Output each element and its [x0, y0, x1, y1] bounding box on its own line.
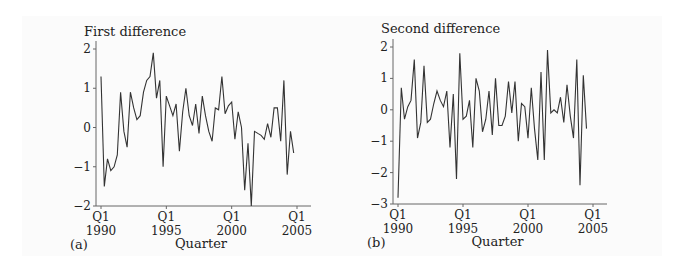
x-axis-label: Quarter: [471, 234, 524, 249]
y-tick-label: −3: [370, 197, 388, 211]
data-line: [101, 53, 294, 206]
y-tick-label: 0: [380, 103, 388, 117]
panel-label: (b): [367, 235, 385, 250]
y-tick-label: −2: [73, 199, 91, 213]
x-axis-label: Quarter: [175, 236, 228, 251]
x-tick-label-quarter: Q1: [92, 210, 109, 224]
chart-first-difference: First difference210−1−2Q11990Q11995Q1200…: [0, 0, 340, 270]
x-tick-label-quarter: Q1: [288, 210, 305, 224]
x-tick-label-year: 2005: [578, 222, 609, 236]
y-tick-label: 1: [83, 81, 91, 95]
data-line: [398, 50, 587, 198]
x-tick-label-quarter: Q1: [454, 208, 471, 222]
x-tick-label-quarter: Q1: [158, 210, 175, 224]
y-tick-label: 1: [380, 71, 388, 85]
chart-title: First difference: [84, 24, 186, 39]
y-tick-label: −1: [73, 160, 91, 174]
chart-title: Second difference: [381, 21, 501, 36]
chart-second-difference: Second difference210−1−2−3Q11990Q11995Q1…: [340, 0, 681, 270]
y-tick-label: 2: [83, 42, 91, 56]
y-tick-label: −2: [370, 166, 388, 180]
y-tick-label: −1: [370, 134, 388, 148]
x-tick-label-year: 1990: [86, 224, 117, 238]
x-tick-label-year: 1990: [383, 222, 414, 236]
panel-label: (a): [70, 237, 88, 252]
y-tick-label: 0: [83, 121, 91, 135]
x-tick-label-quarter: Q1: [223, 210, 240, 224]
x-tick-label-quarter: Q1: [389, 208, 406, 222]
x-tick-label-year: 2005: [282, 224, 313, 238]
x-tick-label-quarter: Q1: [519, 208, 536, 222]
x-tick-label-quarter: Q1: [584, 208, 601, 222]
y-tick-label: 2: [380, 40, 388, 54]
